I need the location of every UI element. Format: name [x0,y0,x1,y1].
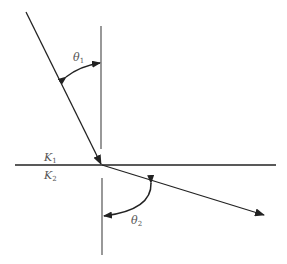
theta1-subscript: 1 [80,57,84,65]
theta2-subscript: 2 [138,220,142,228]
theta1-angle-arc [66,63,100,77]
theta2-label: θ2 [131,215,142,228]
incident-ray [26,12,101,164]
refracted-ray [102,165,264,215]
theta2-symbol: θ [131,214,138,227]
theta1-symbol: θ [73,51,80,64]
theta1-label: θ1 [73,52,84,65]
refraction-diagram [0,0,287,264]
k2-medium-label: K2 [44,170,57,183]
k2-subscript: 2 [52,175,56,183]
k1-symbol: K [44,151,52,164]
theta2-angle-arc [104,183,151,216]
k1-medium-label: K1 [44,152,57,165]
k1-subscript: 1 [52,157,56,165]
k2-symbol: K [44,169,52,182]
